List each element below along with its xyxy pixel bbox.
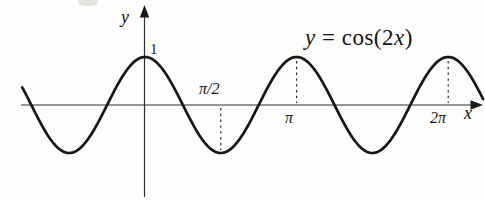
x-tick-label-half-pi: π/2 xyxy=(199,81,219,97)
x-tick-label-two-pi: 2π xyxy=(430,110,446,126)
cosine-plot-figure: y 1 π/2 π 2π x y = cos(2x) xyxy=(0,0,485,200)
x-tick-label-pi: π xyxy=(285,110,293,126)
equation-lhs: y xyxy=(305,25,316,50)
equation-close: ) xyxy=(405,25,413,50)
equation-rel: = xyxy=(316,25,342,50)
y-tick-label-1: 1 xyxy=(150,42,158,57)
y-axis-arrow-icon xyxy=(140,5,149,18)
equation-annotation: y = cos(2x) xyxy=(305,26,413,49)
x-axis-label: x xyxy=(464,104,472,122)
equation-fn: cos(2 xyxy=(342,25,394,50)
y-axis-label: y xyxy=(121,8,129,26)
x-axis-arrow-icon xyxy=(471,100,484,109)
equation-arg: x xyxy=(394,25,405,50)
